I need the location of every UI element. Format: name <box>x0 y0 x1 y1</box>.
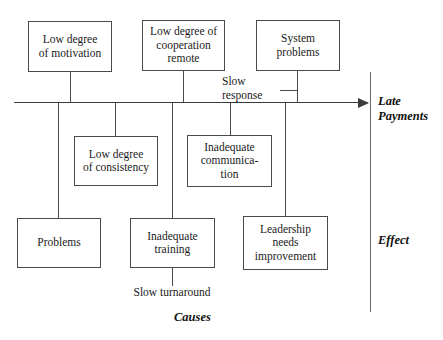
fishbone-diagram: Low degree of motivation Low degree of c… <box>0 0 443 340</box>
cause-label-line2: training <box>147 243 197 257</box>
causes-axis-label: Causes <box>174 310 211 325</box>
effect-title: Late Payments <box>378 94 440 124</box>
cause-label-line1: System <box>277 32 320 46</box>
cause-label-line2: of motivation <box>39 47 101 61</box>
cause-label-line2: needs <box>255 236 316 250</box>
cause-label-line2: of consistency <box>83 161 149 175</box>
cause-label-line1: Low degree <box>83 148 149 162</box>
sub-cause-line1: Slow <box>222 75 246 87</box>
sub-cause-line2: response <box>222 89 262 101</box>
connector-system-problems <box>297 71 298 102</box>
connector-inadequate-training <box>172 102 173 219</box>
spine-line <box>14 102 368 103</box>
cause-label-line1: Leadership <box>255 223 316 237</box>
cause-box-inadequate-training[interactable]: Inadequate training <box>130 218 215 268</box>
effect-title-line1: Late <box>378 94 440 109</box>
cause-label-line2: communica- <box>201 154 258 168</box>
sub-cause-label-slow-turnaround: Slow turnaround <box>122 286 222 300</box>
effect-axis-label: Effect <box>378 233 409 248</box>
connector-problems <box>58 102 59 219</box>
cause-label-line3: remote <box>150 52 217 66</box>
cause-label-line2: problems <box>277 46 320 60</box>
connector-low-degree-of-motivation <box>70 72 71 102</box>
cause-label-line1: Problems <box>37 236 80 250</box>
cause-box-inadequate-communication[interactable]: Inadequate communica- tion <box>187 135 272 187</box>
effect-title-line2: Payments <box>378 109 440 124</box>
cause-box-system-problems[interactable]: System problems <box>256 20 340 71</box>
cause-label-line1: Low degree of <box>150 25 217 39</box>
cause-box-low-degree-of-cooperation-remote[interactable]: Low degree of cooperation remote <box>142 20 225 71</box>
connector-inadequate-communication <box>230 102 231 136</box>
connector-low-degree-of-consistency <box>115 102 116 137</box>
cause-box-low-degree-of-consistency[interactable]: Low degree of consistency <box>74 136 158 186</box>
sub-cause-text: Slow turnaround <box>134 286 211 298</box>
connector-slow-turnaround <box>172 268 173 286</box>
sub-cause-label-slow-response: Slow response <box>222 75 280 102</box>
connector-low-degree-of-cooperation-remote <box>183 71 184 102</box>
connector-leadership-needs-improvement <box>285 102 286 217</box>
effect-divider-line <box>370 72 371 312</box>
cause-label-line1: Inadequate <box>147 230 197 244</box>
spine-arrowhead <box>358 98 369 108</box>
cause-box-low-degree-of-motivation[interactable]: Low degree of motivation <box>28 21 112 72</box>
cause-label-line1: Low degree <box>39 33 101 47</box>
cause-label-line1: Inadequate <box>201 141 258 155</box>
cause-box-problems[interactable]: Problems <box>17 218 101 268</box>
cause-label-line2: cooperation <box>150 39 217 53</box>
cause-box-leadership-needs-improvement[interactable]: Leadership needs improvement <box>243 216 328 270</box>
cause-label-line3: tion <box>201 168 258 182</box>
cause-label-line3: improvement <box>255 250 316 264</box>
